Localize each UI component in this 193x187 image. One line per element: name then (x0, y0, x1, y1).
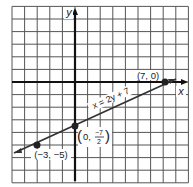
coordinate-graph: x y (7, 0) x = 2y + 7 ( 0, −7 2 ) (−3, −… (0, 0, 193, 187)
x-axis-label: x (177, 85, 184, 97)
point-label-0-prefix: 0, (83, 131, 91, 142)
point-7-0 (162, 79, 169, 86)
fraction-denominator: 2 (97, 138, 101, 145)
fraction-numerator: −7 (95, 129, 103, 136)
paren-left: ( (77, 127, 82, 144)
point-label-7-0: (7, 0) (137, 70, 159, 81)
paren-right: ) (105, 127, 110, 144)
point-neg3-neg5 (34, 142, 41, 149)
line-arrow-left-icon (14, 148, 22, 153)
point-label-neg3-neg5: (−3, −5) (34, 149, 67, 160)
